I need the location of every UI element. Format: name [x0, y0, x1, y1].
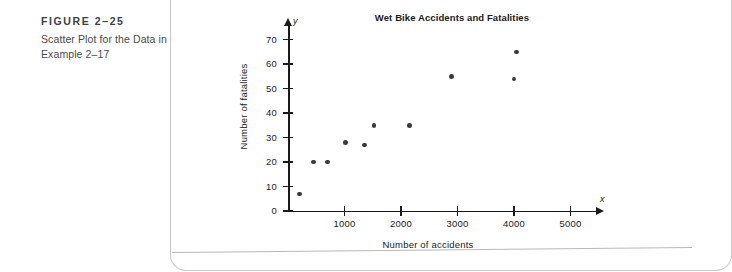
y-tick-mark: [283, 112, 293, 113]
data-point: [407, 123, 412, 128]
data-point: [372, 123, 377, 128]
x-tick-label: 1000: [321, 218, 367, 229]
figure-number-label: FIGURE 2–25: [41, 14, 216, 28]
x-tick-label: 5000: [547, 218, 593, 229]
plot-area: y x 010203040506070 10002000300040005000: [230, 6, 630, 256]
data-point: [297, 192, 302, 197]
y-tick-mark: [283, 39, 293, 40]
y-tick-mark: [283, 161, 293, 162]
x-tick-mark: [400, 206, 401, 216]
scatter-plot-figure: Wet Bike Accidents and Fatalities y x 01…: [230, 6, 630, 256]
y-tick-label: 70: [249, 34, 277, 45]
x-axis-line: [288, 211, 598, 213]
y-tick-label: 0: [249, 205, 277, 216]
data-point: [449, 74, 454, 79]
y-tick-mark: [283, 137, 293, 138]
y-axis-variable-symbol: y: [293, 16, 298, 26]
data-point: [311, 160, 316, 165]
x-tick-mark: [513, 206, 514, 216]
y-tick-label: 50: [249, 83, 277, 94]
figure-caption-line-1: Scatter Plot for the Data in: [41, 32, 216, 47]
figure-caption: FIGURE 2–25 Scatter Plot for the Data in…: [41, 14, 216, 61]
figure-caption-line-2: Example 2–17: [41, 47, 216, 62]
data-point: [325, 160, 330, 165]
y-axis-arrow-icon: [284, 18, 292, 26]
y-axis-line: [288, 25, 290, 212]
x-axis-variable-symbol: x: [600, 194, 605, 204]
x-axis-arrow-icon: [596, 207, 604, 215]
y-tick-mark: [283, 186, 293, 187]
x-tick-mark: [570, 206, 571, 216]
y-tick-mark: [283, 88, 293, 89]
y-tick-label: 60: [249, 58, 277, 69]
x-tick-label: 3000: [434, 218, 480, 229]
x-tick-label: 4000: [491, 218, 537, 229]
data-point: [512, 77, 517, 82]
x-axis-title: Number of accidents: [328, 239, 528, 250]
x-tick-mark: [344, 206, 345, 216]
y-tick-mark: [283, 63, 293, 64]
y-tick-label: 30: [249, 132, 277, 143]
data-point: [343, 140, 348, 145]
y-tick-mark: [283, 210, 293, 211]
y-tick-label: 10: [249, 181, 277, 192]
x-tick-mark: [457, 206, 458, 216]
y-tick-label: 40: [249, 107, 277, 118]
y-axis-title: Number of fatalities: [238, 47, 249, 167]
data-point: [514, 50, 519, 55]
y-tick-label: 20: [249, 156, 277, 167]
x-tick-label: 2000: [378, 218, 424, 229]
data-point: [362, 143, 367, 148]
